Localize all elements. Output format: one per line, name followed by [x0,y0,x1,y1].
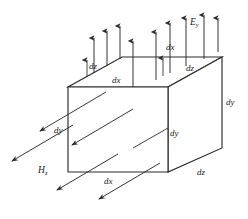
field-h-symbol: H [38,165,45,175]
label-top-right-edge-dz: dz [186,64,194,73]
h-z-arrow [12,125,73,161]
label-field-e-y: Ey [190,18,199,28]
label-arrow-length-dz: dz [89,62,97,71]
label-top-front-edge-dx: dx [112,76,121,85]
label-bottom-front-edge-dx: dx [104,177,113,186]
label-front-right-edge-dy: dy [170,129,179,138]
volume-element-drawing [0,0,248,219]
label-left-edge-dy: dy [54,126,63,135]
cube-front-face [68,87,168,172]
label-far-right-edge-dy: dy [226,98,235,107]
label-bottom-right-edge-dz: dz [197,168,205,177]
field-e-symbol: E [190,17,196,27]
field-h-subscript: z [45,169,48,176]
cube-faces [68,57,222,172]
label-field-h-z: Hz [38,166,47,176]
label-top-face-dx: dx [166,43,175,52]
field-e-subscript: y [196,21,199,28]
figure-canvas: dz dx Ey dx dz dy dy dy Hz dx dz [0,0,248,219]
